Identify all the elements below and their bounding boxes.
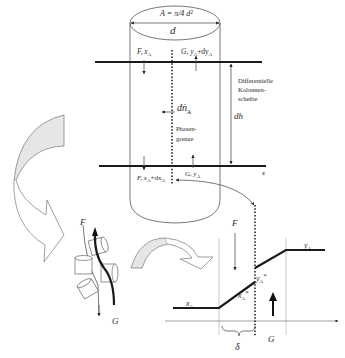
slice-label-line3: scheibe xyxy=(238,95,258,102)
bottom-gas-label: G, yA xyxy=(185,170,201,179)
packing-gas-label: G xyxy=(112,316,119,326)
diameter-label: d xyxy=(170,24,176,36)
axis-z-label: z xyxy=(262,169,265,177)
gas-concentration-line xyxy=(255,250,325,268)
profile-liquid-label: F xyxy=(231,218,238,228)
curved-arrow-left xyxy=(14,115,64,262)
interface-label-line2: grenze xyxy=(176,135,193,142)
cylinder-bottom-arc xyxy=(130,200,220,223)
interface-label-line1: Phasen- xyxy=(176,125,197,132)
film-brace xyxy=(222,326,255,336)
column-cylinder xyxy=(130,6,220,223)
height-label: dh xyxy=(234,111,244,121)
slice-label-line2: Kolonnen- xyxy=(238,86,266,93)
packing-sketch xyxy=(75,225,118,316)
bottom-liquid-label: F, xA+dxA xyxy=(136,174,166,183)
gas-interface-label: yA* xyxy=(255,272,267,284)
top-liquid-label: F, xA xyxy=(136,47,152,57)
film-thickness-label: δ xyxy=(235,341,240,352)
concentration-profile xyxy=(165,205,338,336)
mass-transfer-diagram: A = π/4 d² d F, xA G, yA+dyA dṅA Phasen-… xyxy=(0,0,345,358)
slice-label-line1: Differentielle xyxy=(238,77,273,84)
packing-liquid-label: F xyxy=(79,217,86,227)
flux-label: dṅA xyxy=(177,102,192,115)
curved-arrow-middle xyxy=(131,238,213,269)
liquid-bulk-label: xA xyxy=(185,299,194,309)
area-formula: A = π/4 d² xyxy=(159,9,193,18)
profile-gas-arrowhead xyxy=(269,292,277,301)
top-gas-label: G, yA+dyA xyxy=(181,47,213,57)
profile-gas-label: G xyxy=(268,334,275,344)
packing-gas-arrowhead xyxy=(92,227,98,236)
gas-bulk-label: yA xyxy=(303,241,312,251)
zoom-connector-arrow xyxy=(176,180,254,205)
